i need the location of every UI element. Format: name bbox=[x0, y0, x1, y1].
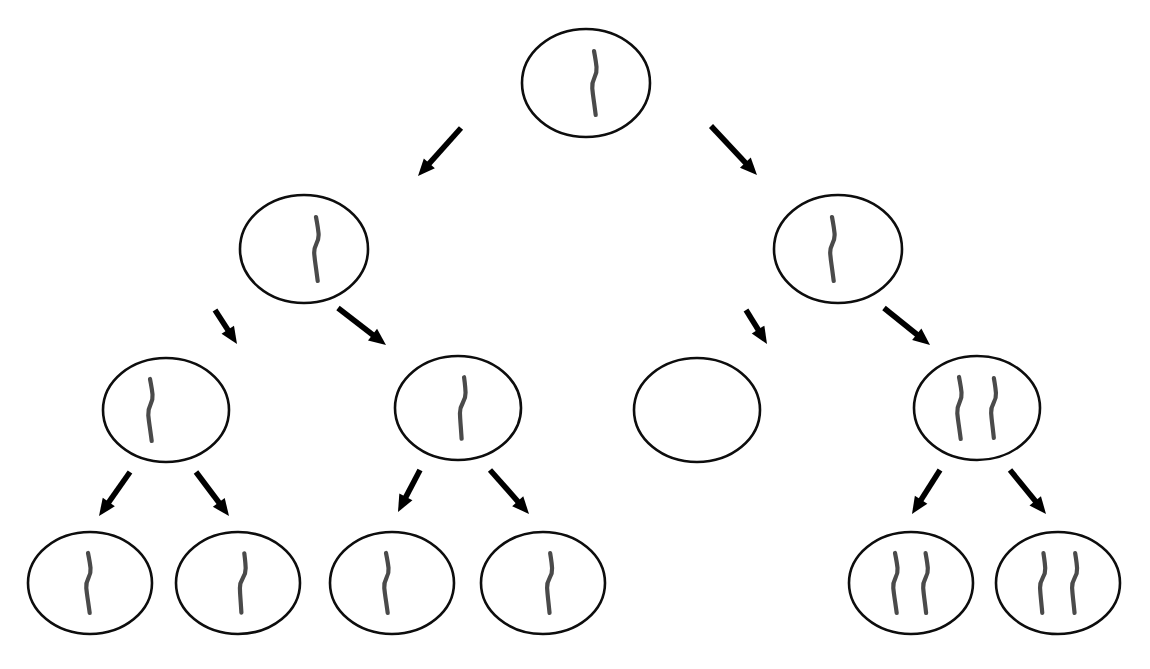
tree-arrow bbox=[746, 310, 767, 344]
node-ellipse[interactable] bbox=[395, 356, 521, 460]
tree-node[interactable] bbox=[28, 532, 152, 634]
arrow-shaft bbox=[711, 126, 747, 165]
node-ellipse[interactable] bbox=[28, 532, 152, 634]
tree-node[interactable] bbox=[774, 195, 902, 303]
tree-arrow bbox=[1010, 470, 1046, 514]
tree-arrow bbox=[99, 472, 130, 516]
tree-node[interactable] bbox=[103, 358, 229, 462]
tree-arrow bbox=[490, 470, 529, 514]
arrow-shaft bbox=[1010, 470, 1037, 503]
tree-node[interactable] bbox=[914, 356, 1040, 460]
node-ellipse[interactable] bbox=[774, 195, 902, 303]
arrow-shaft bbox=[404, 470, 420, 500]
tree-node[interactable] bbox=[996, 532, 1120, 634]
node-ellipse[interactable] bbox=[481, 532, 605, 634]
tree-node[interactable] bbox=[176, 532, 300, 634]
arrow-shaft bbox=[884, 308, 919, 336]
tree-arrow bbox=[196, 472, 229, 516]
arrow-shaft bbox=[196, 472, 221, 505]
arrow-shaft bbox=[490, 470, 520, 504]
node-ellipse[interactable] bbox=[103, 358, 229, 462]
node-ellipse[interactable] bbox=[914, 356, 1040, 460]
arrow-shaft bbox=[920, 470, 940, 502]
tree-arrow bbox=[398, 470, 420, 512]
arrow-shaft bbox=[746, 310, 760, 332]
tree-arrow bbox=[711, 126, 757, 175]
tree-node[interactable] bbox=[522, 29, 650, 137]
node-ellipse[interactable] bbox=[176, 532, 300, 634]
node-ellipse[interactable] bbox=[330, 532, 454, 634]
tree-node[interactable] bbox=[395, 356, 521, 460]
tree-arrow bbox=[912, 470, 940, 514]
tree-node[interactable] bbox=[849, 532, 973, 634]
tree-node[interactable] bbox=[481, 532, 605, 634]
tree-arrow bbox=[418, 128, 461, 176]
arrow-shaft bbox=[338, 308, 375, 336]
tree-diagram bbox=[0, 0, 1150, 669]
tree-node[interactable] bbox=[330, 532, 454, 634]
arrow-layer bbox=[99, 126, 1046, 516]
arrow-shaft bbox=[215, 310, 229, 332]
node-ellipse[interactable] bbox=[849, 532, 973, 634]
tree-arrow bbox=[215, 310, 237, 344]
arrow-shaft bbox=[107, 472, 130, 505]
node-ellipse[interactable] bbox=[240, 195, 368, 303]
node-ellipse[interactable] bbox=[996, 532, 1120, 634]
node-ellipse[interactable] bbox=[634, 358, 760, 462]
node-layer bbox=[28, 29, 1120, 634]
tree-node[interactable] bbox=[634, 358, 760, 462]
node-ellipse[interactable] bbox=[522, 29, 650, 137]
tree-canvas bbox=[0, 0, 1150, 669]
tree-arrow bbox=[884, 308, 930, 345]
tree-arrow bbox=[338, 308, 386, 345]
arrow-shaft bbox=[427, 128, 461, 166]
tree-node[interactable] bbox=[240, 195, 368, 303]
